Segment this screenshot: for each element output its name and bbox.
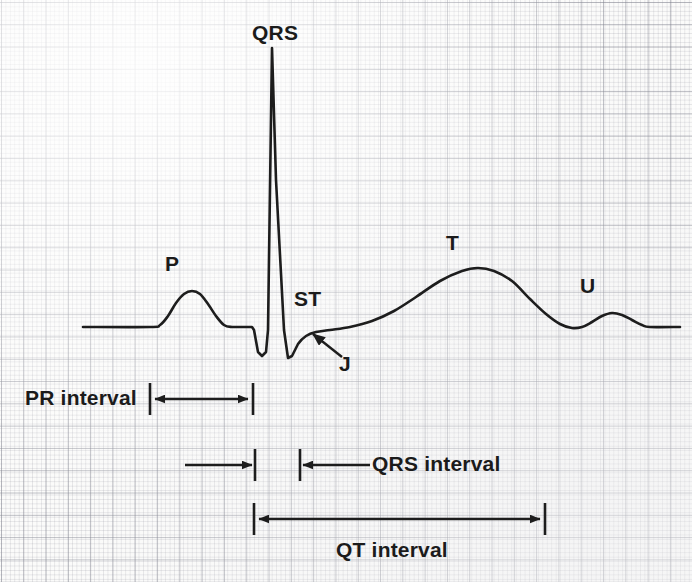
- ecg-waveform-figure: P QRS ST J T U PR interval QRS interval …: [0, 0, 692, 582]
- label-t-wave: T: [446, 232, 459, 253]
- label-p-wave: P: [165, 253, 179, 274]
- label-pr-interval: PR interval: [25, 387, 137, 408]
- qt-interval-marker: [254, 503, 545, 535]
- j-point-leader-arrow: [313, 334, 342, 357]
- label-qt-interval: QT interval: [336, 539, 448, 560]
- ecg-trace-path: [83, 48, 680, 358]
- qrs-interval-marker: [185, 449, 370, 481]
- label-st-segment: ST: [294, 288, 321, 309]
- label-qrs-interval: QRS interval: [372, 453, 500, 474]
- label-u-wave: U: [580, 275, 595, 296]
- label-j-point: J: [339, 353, 351, 374]
- label-qrs-complex: QRS: [252, 22, 298, 43]
- pr-interval-marker: [150, 383, 253, 415]
